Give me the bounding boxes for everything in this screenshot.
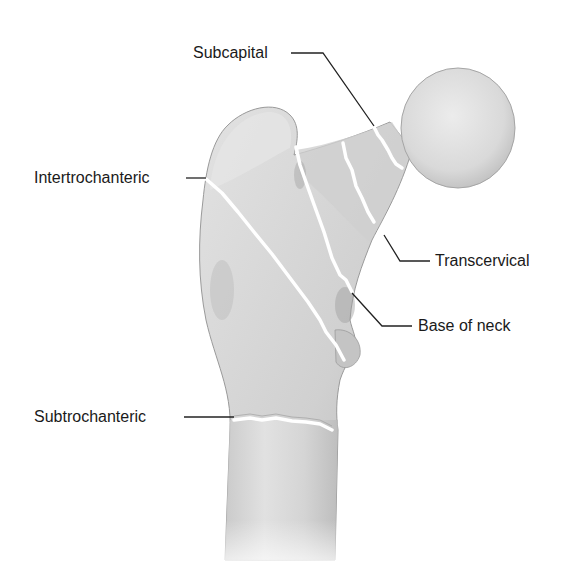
- label-intertrochanteric: Intertrochanteric: [34, 169, 150, 187]
- femur-illustration: [0, 0, 581, 581]
- femoral-head: [401, 68, 515, 188]
- label-transcervical: Transcervical: [435, 252, 530, 270]
- label-subtrochanteric: Subtrochanteric: [34, 408, 146, 426]
- subcapital-leader: [291, 53, 374, 126]
- label-subcapital: Subcapital: [193, 44, 268, 62]
- transcervical-leader: [384, 235, 430, 261]
- label-base-of-neck: Base of neck: [418, 317, 511, 335]
- base-of-neck-leader: [352, 293, 412, 326]
- femur-fracture-diagram: Subcapital Intertrochanteric Transcervic…: [0, 0, 581, 581]
